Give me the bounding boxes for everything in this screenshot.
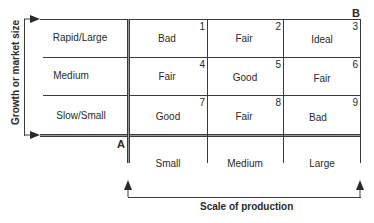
arrow-up-icon [124, 180, 133, 197]
cell-7-number: 7 [199, 97, 205, 108]
row-label-medium: Medium [53, 70, 89, 81]
row-label-rapid-large: Rapid/Large [53, 32, 107, 43]
y-axis-bracket [24, 19, 25, 136]
arrow-right-icon [24, 15, 40, 24]
grid-line-row1 [43, 57, 361, 58]
cell-6-number: 6 [352, 59, 358, 70]
cell-3-number: 3 [352, 21, 358, 32]
arrow-up-icon [356, 180, 365, 197]
cell-8-number: 8 [275, 97, 281, 108]
cell-2-number: 2 [275, 21, 281, 32]
grid-line-right [360, 19, 361, 163]
cell-2-rating: Fair [235, 33, 252, 44]
corner-label-a: A [117, 138, 125, 150]
column-label-small: Small [155, 158, 180, 169]
row-label-slow-small: Slow/Small [56, 110, 105, 121]
grid-line-top [40, 19, 361, 20]
x-axis-line [40, 134, 361, 137]
cell-6-rating: Fair [313, 73, 330, 84]
cell-3-rating: Ideal [311, 34, 333, 45]
cell-8-rating: Fair [235, 111, 252, 122]
cell-1-rating: Bad [158, 33, 176, 44]
cell-1-number: 1 [199, 21, 205, 32]
cell-5-rating: Good [233, 72, 257, 83]
grid-line-col1 [207, 19, 208, 163]
x-axis-bracket [128, 197, 361, 198]
cell-7-rating: Good [156, 111, 180, 122]
cell-5-number: 5 [275, 59, 281, 70]
cell-9-number: 9 [352, 97, 358, 108]
x-axis-label: Scale of production [200, 201, 293, 212]
corner-label-b: B [352, 7, 360, 19]
grid-line-col2 [283, 19, 284, 163]
y-axis-label: Growth or market size [10, 20, 21, 125]
cell-9-rating: Bad [309, 112, 327, 123]
grid-line-row2 [43, 95, 361, 96]
column-label-medium: Medium [227, 158, 263, 169]
arrow-right-icon [24, 131, 40, 140]
cell-4-rating: Fair [158, 71, 175, 82]
cell-4-number: 4 [199, 59, 205, 70]
y-axis-line [127, 19, 130, 163]
column-label-large: Large [309, 158, 335, 169]
